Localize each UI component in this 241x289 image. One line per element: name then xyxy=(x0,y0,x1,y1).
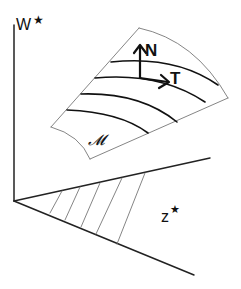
w-axis-star: ★ xyxy=(33,13,44,27)
z-plane-star: ★ xyxy=(170,203,180,215)
hatch-line xyxy=(50,191,62,213)
hatch-line xyxy=(96,178,122,234)
level-curve xyxy=(67,110,148,133)
w-axis-label: W xyxy=(16,16,32,33)
plane-upper-edge xyxy=(14,158,210,201)
level-curve xyxy=(95,77,205,102)
manifold-bottom-edge xyxy=(90,98,228,159)
manifold-bottom-left-edge xyxy=(51,127,90,159)
tangent-label: T xyxy=(170,69,181,88)
level-curve xyxy=(81,94,177,122)
manifold-diagram: W ★ z ★ N T 𝓜 xyxy=(0,0,241,289)
normal-label: N xyxy=(145,41,157,60)
hatch-line xyxy=(117,173,145,244)
hatch-line xyxy=(81,183,100,227)
hatched-region xyxy=(50,173,145,244)
hatch-line xyxy=(65,187,80,220)
z-plane-label: z xyxy=(161,208,169,225)
manifold-top-edge xyxy=(139,28,228,98)
manifold-label: 𝓜 xyxy=(88,131,110,149)
